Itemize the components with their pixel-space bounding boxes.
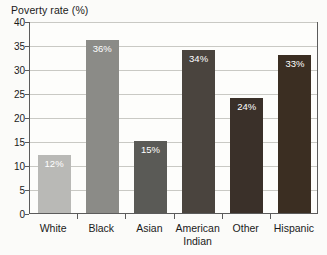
gridline-20 [30,118,317,119]
bar-value-label: 15% [134,144,167,155]
x-tick-mark-3 [174,214,175,219]
x-tick-mark-5 [270,214,271,219]
y-tick-label-20: 20 [1,113,25,124]
gridline-25 [30,94,317,95]
gridline-40 [30,22,317,23]
gridline-35 [30,46,317,47]
y-axis-tick-labels: 0510152025303540 [0,22,25,214]
x-axis-label-other: Other [222,222,270,235]
bar-value-label: 34% [182,53,215,64]
x-axis-label-american-indian: American Indian [174,222,222,247]
y-tick-label-0: 0 [1,209,25,220]
x-axis: WhiteBlackAsianAmerican IndianOtherHispa… [29,214,318,254]
bar-value-label: 33% [278,58,311,69]
x-axis-label-white: White [29,222,77,235]
gridline-10 [30,166,317,167]
bar-other[interactable]: 24% [230,98,263,213]
x-tick-mark-1 [77,214,78,219]
gridline-15 [30,142,317,143]
y-tick-label-15: 15 [1,137,25,148]
y-tick-label-25: 25 [1,89,25,100]
bar-value-label: 12% [38,158,71,169]
bar-white[interactable]: 12% [38,155,71,213]
gridline-30 [30,70,317,71]
y-tick-label-30: 30 [1,65,25,76]
bar-american-indian[interactable]: 34% [182,50,215,213]
y-tick-label-35: 35 [1,41,25,52]
gridline-5 [30,190,317,191]
bar-value-label: 24% [230,101,263,112]
x-axis-label-asian: Asian [125,222,173,235]
bar-hispanic[interactable]: 33% [278,55,311,213]
x-axis-label-hispanic: Hispanic [270,222,318,235]
plot-area: 12%36%15%34%24%33% [30,22,317,213]
bar-asian[interactable]: 15% [134,141,167,213]
bar-black[interactable]: 36% [86,40,119,213]
x-tick-mark-4 [222,214,223,219]
plot-frame: 12%36%15%34%24%33% [29,22,318,214]
x-tick-mark-2 [125,214,126,219]
y-tick-label-40: 40 [1,17,25,28]
bar-value-label: 36% [86,43,119,54]
chart-axis-title: Poverty rate (%) [11,4,88,16]
x-axis-label-black: Black [77,222,125,235]
y-tick-label-5: 5 [1,185,25,196]
y-tick-label-10: 10 [1,161,25,172]
chart-screenshot: Poverty rate (%) 0510152025303540 12%36%… [0,0,327,255]
